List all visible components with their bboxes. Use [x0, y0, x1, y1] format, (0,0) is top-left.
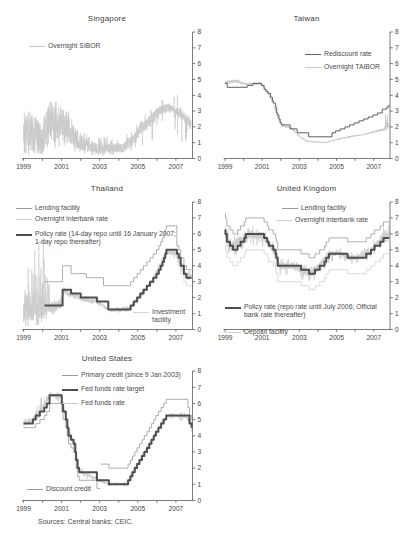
svg-text:8: 8 [198, 367, 202, 374]
svg-text:2: 2 [395, 294, 399, 301]
legend-label: Overnight interbank rate [295, 216, 368, 224]
svg-text:2003: 2003 [92, 334, 107, 341]
svg-text:8: 8 [395, 198, 399, 205]
panel-title-taiwan: Taiwan [223, 14, 390, 23]
svg-text:2001: 2001 [255, 163, 270, 170]
singapore-chart: 01234567819992001200320052007 [0, 0, 206, 178]
svg-text:1: 1 [198, 139, 202, 146]
svg-text:3: 3 [395, 107, 399, 114]
legend-swatch-icon [305, 67, 321, 68]
svg-text:5: 5 [198, 416, 202, 423]
svg-text:7: 7 [198, 384, 202, 391]
svg-text:1: 1 [198, 310, 202, 317]
legend-primary-credit: Primary credit (since 9 Jan 2003) [62, 371, 181, 379]
svg-text:3: 3 [198, 448, 202, 455]
panel-title-united-states: United States [22, 354, 192, 363]
legend-swatch-icon [282, 208, 298, 209]
legend-swatch-icon [27, 489, 43, 490]
svg-text:1999: 1999 [16, 334, 31, 341]
svg-text:7: 7 [198, 214, 202, 221]
svg-text:2005: 2005 [130, 334, 145, 341]
legend-swatch-icon [16, 208, 32, 209]
svg-text:7: 7 [395, 214, 399, 221]
svg-text:7: 7 [198, 44, 202, 51]
svg-text:5: 5 [395, 76, 399, 83]
svg-text:4: 4 [395, 262, 399, 269]
legend-label: Fed funds rate target [81, 385, 144, 393]
legend-swatch-icon [62, 389, 78, 391]
legend-overnight-interbank: Overnight interbank rate [16, 215, 108, 223]
svg-text:0: 0 [198, 497, 202, 504]
legend-deposit-facility: Deposit facility [225, 328, 288, 336]
legend-label: Lending facility [35, 204, 80, 212]
legend-label: Primary credit (since 9 Jan 2003) [81, 371, 181, 379]
svg-text:8: 8 [395, 28, 399, 35]
svg-text:5: 5 [198, 76, 202, 83]
svg-text:2003: 2003 [92, 505, 107, 512]
svg-text:1: 1 [395, 310, 399, 317]
sources-note: Sources: Central banks; CEIC. [38, 518, 133, 525]
svg-text:2003: 2003 [292, 163, 307, 170]
svg-text:5: 5 [198, 246, 202, 253]
svg-text:6: 6 [395, 60, 399, 67]
legend-overnight-interbank: Overnight interbank rate [276, 216, 368, 224]
svg-text:2001: 2001 [54, 505, 69, 512]
svg-text:2001: 2001 [54, 163, 69, 170]
svg-text:2001: 2001 [54, 334, 69, 341]
legend-label: Deposit facility [244, 328, 288, 336]
panel-taiwan: 01234567819992001200320052007 Taiwan Red… [206, 0, 413, 178]
legend-label: Investment facility [152, 308, 194, 325]
svg-text:1999: 1999 [16, 163, 31, 170]
svg-text:3: 3 [395, 278, 399, 285]
svg-text:6: 6 [395, 230, 399, 237]
svg-text:5: 5 [395, 246, 399, 253]
legend-swatch-icon [276, 220, 292, 221]
svg-text:2: 2 [198, 464, 202, 471]
svg-text:2: 2 [198, 123, 202, 130]
svg-text:2: 2 [198, 294, 202, 301]
panel-title-united-kingdom: United Kingdom [223, 184, 390, 193]
legend-swatch-icon [29, 46, 45, 47]
panel-title-thailand: Thailand [22, 184, 192, 193]
svg-text:0: 0 [395, 326, 399, 333]
legend-swatch-icon [133, 312, 149, 313]
legend-policy-rate: Policy rate (14-day repo until 16 Januar… [16, 230, 181, 247]
svg-text:2005: 2005 [329, 334, 344, 341]
svg-text:4: 4 [198, 262, 202, 269]
panel-thailand: 01234567819992001200320052007 Thailand L… [0, 178, 206, 360]
svg-text:1: 1 [395, 139, 399, 146]
legend-policy-rate: Policy rate (repo rate until July 2006; … [225, 303, 385, 320]
legend-lending-facility: Lending facility [282, 204, 346, 212]
svg-text:0: 0 [395, 155, 399, 162]
svg-text:0: 0 [198, 326, 202, 333]
svg-text:2007: 2007 [366, 163, 381, 170]
legend-label: Lending facility [301, 204, 346, 212]
svg-text:4: 4 [395, 92, 399, 99]
legend-swatch-icon [62, 403, 78, 404]
legend-swatch-icon [16, 234, 32, 236]
legend-label: Fed funds rate [81, 399, 125, 407]
legend-overnight-sibor: Overnight SIBOR [29, 42, 101, 50]
svg-text:1: 1 [198, 481, 202, 488]
legend-discount-credit: Discount credit [27, 485, 91, 493]
figure-policy-rates: 01234567819992001200320052007 Singapore … [0, 0, 413, 543]
svg-text:3: 3 [198, 278, 202, 285]
legend-label: Rediscount rate [324, 50, 372, 58]
svg-text:7: 7 [395, 44, 399, 51]
svg-text:2007: 2007 [366, 334, 381, 341]
legend-swatch-icon [305, 54, 321, 55]
svg-text:4: 4 [198, 92, 202, 99]
legend-swatch-icon [225, 307, 241, 309]
panel-singapore: 01234567819992001200320052007 Singapore … [0, 0, 206, 178]
svg-text:0: 0 [198, 155, 202, 162]
panel-title-singapore: Singapore [22, 14, 192, 23]
legend-swatch-icon [16, 219, 32, 220]
svg-text:1999: 1999 [218, 163, 233, 170]
taiwan-chart: 01234567819992001200320052007 [206, 0, 413, 178]
svg-text:2: 2 [395, 123, 399, 130]
svg-text:2005: 2005 [329, 163, 344, 170]
legend-label: Overnight TAIBOR [324, 63, 380, 71]
svg-text:2005: 2005 [130, 505, 145, 512]
svg-text:6: 6 [198, 60, 202, 67]
legend-fed-funds-rate: Fed funds rate [62, 399, 125, 407]
